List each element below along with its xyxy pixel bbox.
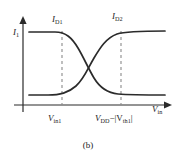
x-axis-label: Vin xyxy=(152,105,162,114)
x-tick-label-vdd-vth1: VDD−|Vth1| xyxy=(95,114,133,123)
figure-caption: (b) xyxy=(0,140,176,150)
y-axis xyxy=(19,16,26,112)
curve-label-id1: ID1 xyxy=(52,15,63,24)
y-axis-label: I1 xyxy=(13,28,19,37)
x-tick-label-vin1: Vin1 xyxy=(48,114,61,123)
curve-label-id2: ID2 xyxy=(112,12,123,21)
curve-id1 xyxy=(29,32,165,95)
plot-canvas xyxy=(0,0,176,163)
figure-container: I1 ID1 ID2 Vin1 VDD−|Vth1| Vin (b) xyxy=(0,0,176,163)
x-axis xyxy=(14,101,172,108)
curve-id2 xyxy=(29,31,165,95)
